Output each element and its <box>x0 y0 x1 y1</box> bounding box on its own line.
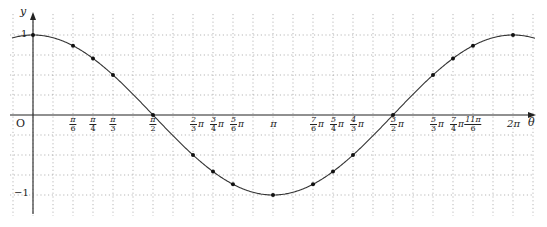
origin-label: O <box>16 118 25 129</box>
x-tick-label: 56π <box>230 116 244 133</box>
y-axis-label: y <box>20 6 26 17</box>
y-tick-1: 1 <box>21 29 27 39</box>
x-axis-label: θ <box>528 117 535 128</box>
x-tick-label: 76π <box>310 116 324 133</box>
x-tick-label: π <box>269 119 277 129</box>
cosine-plot <box>0 0 547 227</box>
x-tick-label: 11π6 <box>464 116 481 133</box>
x-tick-label: 32π <box>390 116 404 133</box>
y-tick-minus-1: −1 <box>14 188 29 198</box>
x-tick-label: π4 <box>89 116 96 133</box>
x-tick-label: 74π <box>450 116 464 133</box>
x-tick-label: π6 <box>69 116 76 133</box>
x-tick-label: 54π <box>330 116 344 133</box>
x-tick-label: 34π <box>210 116 224 133</box>
x-tick-label: π3 <box>109 116 116 133</box>
x-tick-label: 43π <box>350 116 364 133</box>
x-tick-label: 2π <box>506 119 520 129</box>
x-tick-label: 53π <box>430 116 444 133</box>
x-tick-label: π2 <box>149 116 156 133</box>
x-tick-label: 23π <box>190 116 204 133</box>
